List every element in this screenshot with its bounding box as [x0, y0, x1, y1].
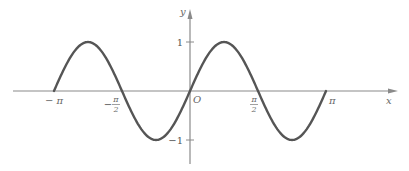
x-tick-label: π [328, 95, 336, 106]
x-axis-arrow-icon [388, 89, 398, 94]
x-tick-label-numerator: π [250, 95, 257, 104]
y-axis-label: y [179, 6, 186, 17]
axes [13, 9, 398, 164]
x-axis-label: x [386, 95, 392, 106]
x-tick-label-numerator: π [112, 95, 119, 104]
y-axis-arrow-icon [188, 9, 193, 19]
x-tick-label-sign: − [104, 99, 112, 110]
sine-chart: 1−1− π−π2π2π x y O [0, 0, 409, 171]
y-tick-label: −1 [168, 135, 183, 146]
x-tick-label-denominator: 2 [112, 105, 118, 114]
y-tick-label: 1 [177, 37, 183, 48]
x-tick-label: − π [45, 95, 64, 106]
origin-label: O [193, 94, 201, 105]
x-tick-label-denominator: 2 [250, 105, 256, 114]
